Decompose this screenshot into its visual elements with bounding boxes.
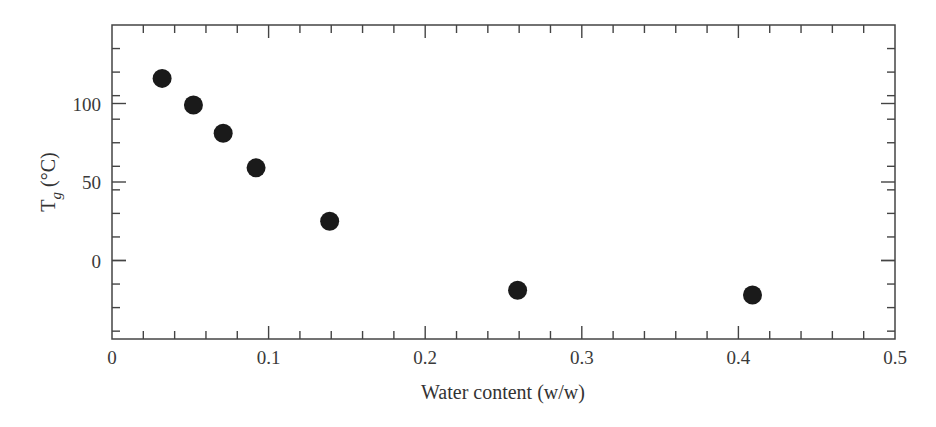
y-tick-labels: 050100 [73,94,102,272]
data-point [247,158,266,177]
data-point [743,286,762,305]
x-tick-label: 0.1 [257,347,281,368]
x-axis-title: Water content (w/w) [421,381,585,404]
x-tick-labels: 00.10.20.30.40.5 [107,347,907,368]
y-axis-title-main: T [37,199,59,211]
y-tick-label: 50 [82,172,101,193]
scatter-chart: 00.10.20.30.40.5 050100 Water content (w… [0,0,936,427]
data-point [508,281,527,300]
x-tick-label: 0.4 [727,347,751,368]
x-tick-label: 0.2 [413,347,437,368]
plot-frame [112,25,895,339]
data-point [184,96,203,115]
y-tick-label: 100 [73,94,102,115]
x-tick-label: 0 [107,347,117,368]
data-point [320,212,339,231]
data-point [214,124,233,143]
data-points [153,69,762,305]
axis-ticks [112,25,895,339]
x-tick-label: 0.3 [570,347,594,368]
data-point [153,69,172,88]
y-tick-label: 0 [92,251,102,272]
x-tick-label: 0.5 [883,347,907,368]
y-axis-title: Tg (°C) [37,152,64,211]
y-axis-title-unit: (°C) [37,152,60,192]
